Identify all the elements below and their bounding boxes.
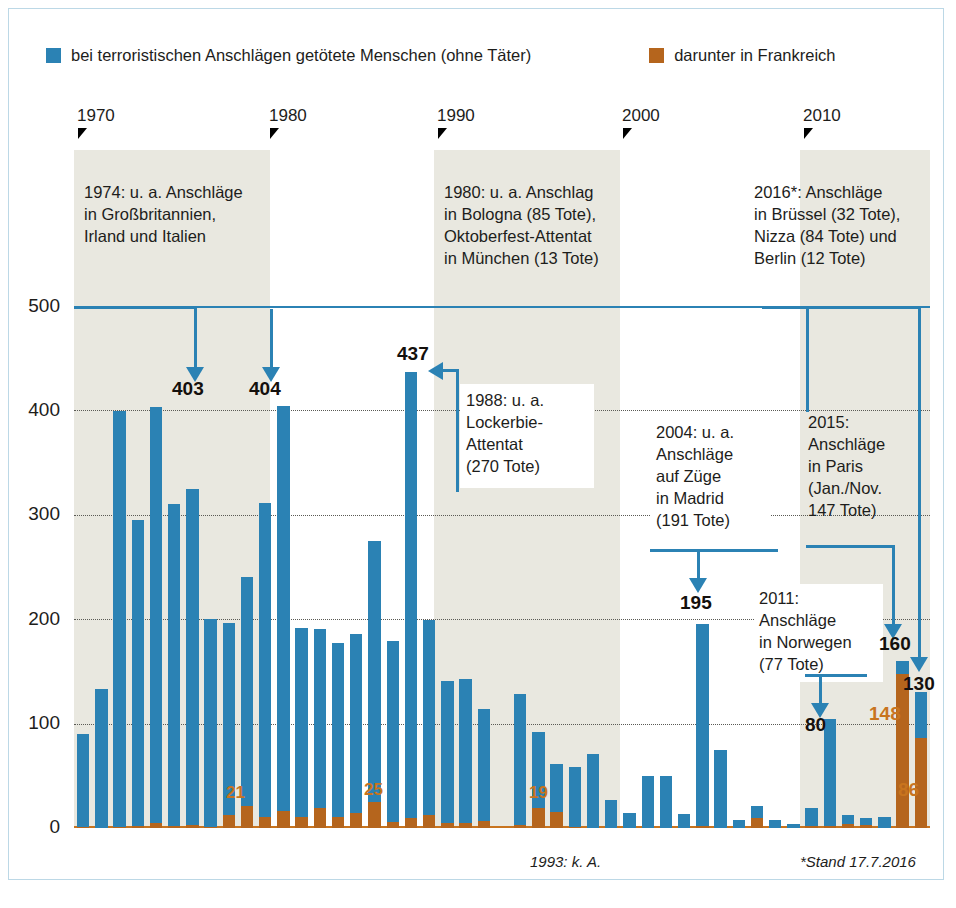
year-marker-triangle-icon bbox=[623, 128, 632, 139]
y-tick-label-400: 400 bbox=[6, 399, 60, 421]
bar-1997[interactable] bbox=[569, 767, 581, 828]
year-marker-triangle-icon bbox=[438, 128, 447, 139]
bar-1985[interactable] bbox=[350, 634, 362, 828]
bar-segment-total bbox=[295, 628, 307, 828]
bar-segment-total bbox=[769, 820, 781, 828]
bar-segment-france bbox=[514, 825, 526, 828]
year-label-1980: 1980 bbox=[269, 106, 307, 126]
axis-baseline bbox=[74, 826, 930, 828]
bar-segment-total bbox=[678, 814, 690, 828]
bar-2006[interactable] bbox=[733, 820, 745, 828]
bar-segment-france bbox=[860, 825, 872, 828]
callout-2004: 2004: u. a. Anschläge auf Züge in Madrid… bbox=[650, 416, 770, 540]
bar-2013[interactable] bbox=[860, 818, 872, 828]
bar-segment-france bbox=[241, 806, 253, 828]
gridline-300 bbox=[74, 515, 930, 516]
bar-2009[interactable] bbox=[787, 824, 799, 828]
value-label-2015: 160 bbox=[879, 633, 911, 655]
bar-2010[interactable] bbox=[805, 808, 817, 828]
bar-segment-total bbox=[150, 407, 162, 828]
bar-1984[interactable] bbox=[332, 643, 344, 828]
bar-2001[interactable] bbox=[642, 776, 654, 828]
y-tick-label-0: 0 bbox=[6, 816, 60, 838]
y-tick-label-300: 300 bbox=[6, 503, 60, 525]
bar-1995[interactable] bbox=[532, 732, 544, 828]
bar-segment-france bbox=[332, 817, 344, 828]
bar-segment-total bbox=[587, 754, 599, 828]
bar-1996[interactable] bbox=[550, 764, 562, 828]
value-label-1974: 403 bbox=[172, 378, 204, 400]
chart-legend: bei terroristischen Anschlägen getötete … bbox=[46, 42, 836, 68]
arrow-head-2016-icon bbox=[910, 657, 928, 672]
bar-segment-france bbox=[532, 808, 544, 828]
bar-1970[interactable] bbox=[77, 734, 89, 828]
bar-segment-total bbox=[459, 679, 471, 828]
footnote-left: 1993: k. A. bbox=[530, 853, 601, 870]
bar-segment-total bbox=[714, 750, 726, 828]
infographic-root: bei terroristischen Anschlägen getötete … bbox=[0, 0, 956, 908]
bar-1973[interactable] bbox=[132, 520, 144, 828]
bar-segment-france bbox=[569, 827, 581, 828]
bar-1982[interactable] bbox=[295, 628, 307, 828]
bar-segment-total bbox=[259, 503, 271, 828]
bar-2002[interactable] bbox=[660, 776, 672, 828]
bar-1975[interactable] bbox=[168, 504, 180, 828]
bar-2016[interactable] bbox=[915, 692, 927, 828]
bar-segment-france bbox=[277, 811, 289, 828]
bar-1998[interactable] bbox=[587, 754, 599, 828]
legend-swatch-blue bbox=[46, 48, 61, 63]
arrow-stem-1988 bbox=[456, 370, 459, 492]
bar-1987[interactable] bbox=[387, 641, 399, 828]
bar-2000[interactable] bbox=[623, 813, 635, 828]
year-label-1970: 1970 bbox=[77, 106, 115, 126]
bar-segment-france bbox=[441, 823, 453, 828]
bar-2014[interactable] bbox=[878, 817, 890, 828]
bar-1981[interactable] bbox=[277, 406, 289, 828]
bar-1992[interactable] bbox=[478, 709, 490, 828]
bar-2005[interactable] bbox=[714, 750, 726, 828]
bar-segment-total bbox=[787, 824, 799, 828]
bar-1990[interactable] bbox=[441, 681, 453, 828]
bar-1972[interactable] bbox=[113, 411, 125, 828]
arrow-run-2016 bbox=[762, 306, 920, 309]
arrow-head-2004-icon bbox=[689, 578, 707, 593]
bar-1974[interactable] bbox=[150, 407, 162, 828]
bar-1999[interactable] bbox=[605, 800, 617, 828]
bar-2007[interactable] bbox=[751, 806, 763, 828]
bar-segment-total bbox=[878, 817, 890, 828]
bar-2008[interactable] bbox=[769, 820, 781, 828]
bar-segment-total bbox=[514, 694, 526, 828]
bar-1988[interactable] bbox=[405, 372, 417, 828]
year-marker-triangle-icon bbox=[270, 128, 279, 139]
legend-item-total: bei terroristischen Anschlägen getötete … bbox=[46, 47, 531, 64]
value-label-france-2015: 148 bbox=[869, 703, 901, 725]
bar-1989[interactable] bbox=[423, 620, 435, 828]
bar-1971[interactable] bbox=[95, 689, 107, 828]
callout-1980: 1980: u. a. Anschlag in Bologna (85 Tote… bbox=[444, 182, 634, 270]
bar-segment-france bbox=[805, 826, 817, 828]
bar-segment-total bbox=[314, 629, 326, 828]
bar-segment-france bbox=[368, 802, 380, 828]
arrow-run-2011 bbox=[805, 674, 867, 677]
bar-1980[interactable] bbox=[259, 503, 271, 828]
bar-2003[interactable] bbox=[678, 814, 690, 828]
callout-1974: 1974: u. a. Anschläge in Großbritannien,… bbox=[84, 182, 264, 248]
bar-1983[interactable] bbox=[314, 629, 326, 828]
bar-1991[interactable] bbox=[459, 679, 471, 828]
legend-label-france: darunter in Frankreich bbox=[674, 47, 835, 64]
bar-segment-france bbox=[295, 817, 307, 828]
bar-segment-france bbox=[824, 826, 836, 828]
arrow-stem-2016 bbox=[918, 306, 921, 660]
bar-segment-france bbox=[459, 823, 471, 828]
bar-segment-total bbox=[441, 681, 453, 828]
bar-segment-total bbox=[733, 820, 745, 828]
bar-2004[interactable] bbox=[696, 624, 708, 828]
legend-label-total: bei terroristischen Anschlägen getötete … bbox=[71, 47, 531, 64]
bar-1994[interactable] bbox=[514, 694, 526, 828]
bar-segment-france bbox=[204, 827, 216, 828]
bar-2012[interactable] bbox=[842, 815, 854, 828]
bar-segment-france bbox=[113, 827, 125, 828]
bar-1976[interactable] bbox=[186, 489, 198, 828]
value-label-2004: 195 bbox=[680, 592, 712, 614]
bar-1977[interactable] bbox=[204, 619, 216, 828]
